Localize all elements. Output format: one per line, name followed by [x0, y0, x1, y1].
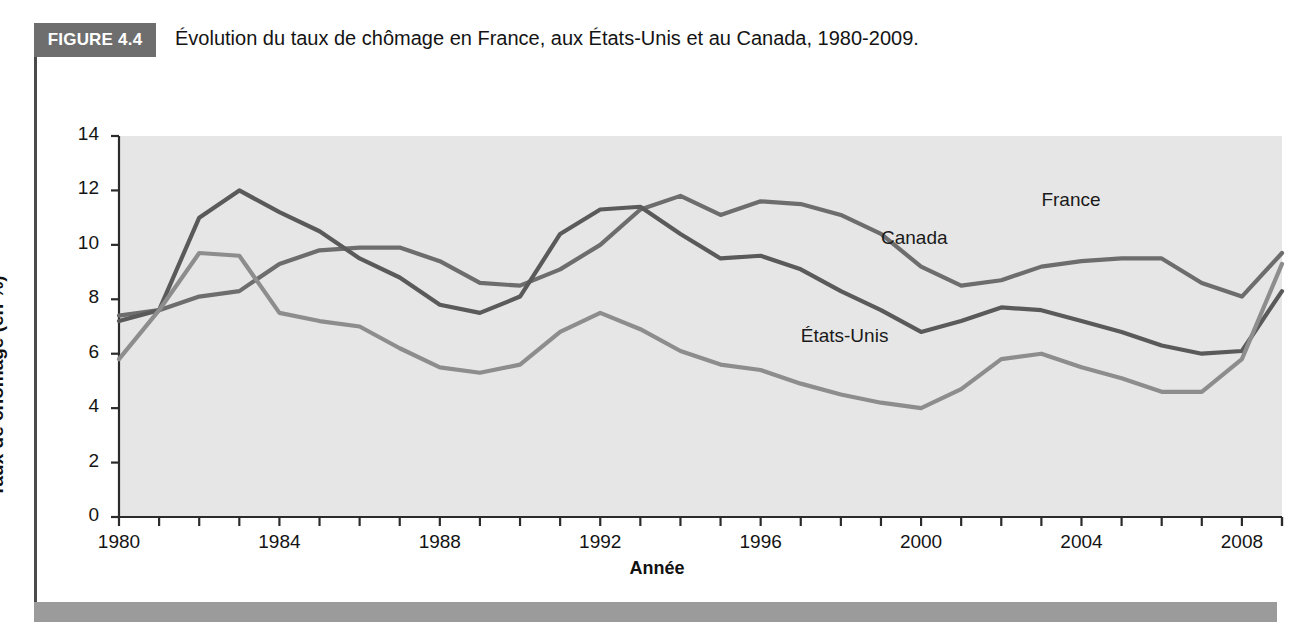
x-tick-label: 2008: [1202, 531, 1282, 553]
figure-stem-rule: [34, 57, 37, 609]
figure-page: FIGURE 4.4 Évolution du taux de chômage …: [0, 0, 1314, 638]
series-label-canada: Canada: [881, 227, 948, 249]
y-tick-label: 8: [57, 286, 99, 308]
x-tick-label: 1988: [400, 531, 480, 553]
y-tick-label: 4: [57, 395, 99, 417]
chart-plot-background: [119, 136, 1282, 517]
x-tick-label: 1992: [560, 531, 640, 553]
x-axis-title: Année: [0, 558, 1314, 579]
y-tick-label: 2: [57, 450, 99, 472]
x-tick-label: 2004: [1041, 531, 1121, 553]
y-tick-label: 6: [57, 341, 99, 363]
y-tick-label: 12: [57, 177, 99, 199]
figure-footer-bar: [34, 602, 1277, 622]
figure-title: Évolution du taux de chômage en France, …: [175, 27, 1275, 50]
figure-number-badge: FIGURE 4.4: [34, 23, 156, 57]
y-tick-label: 10: [57, 232, 99, 254]
y-axis-title: Taux de chômage (en %): [0, 236, 8, 536]
y-tick-label: 14: [57, 123, 99, 145]
x-tick-label: 1980: [79, 531, 159, 553]
y-tick-label: 0: [57, 504, 99, 526]
x-tick-label: 2000: [881, 531, 961, 553]
x-tick-label: 1996: [721, 531, 801, 553]
series-label--tats-unis: États-Unis: [801, 325, 889, 347]
x-tick-label: 1984: [239, 531, 319, 553]
series-label-france: France: [1041, 189, 1100, 211]
